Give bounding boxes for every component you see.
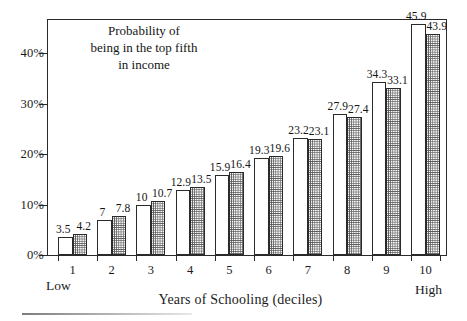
y-axis-tick-label: 20%	[20, 147, 44, 162]
bar-value-label-series-1: 23.2	[288, 124, 309, 136]
x-axis-tick	[254, 255, 255, 261]
bar-value-label-series-1: 19.3	[249, 144, 270, 156]
x-axis-title: Years of Schooling (deciles)	[0, 292, 467, 308]
bar-value-label-series-1: 27.9	[328, 100, 349, 112]
x-axis-tick-label: 2	[109, 263, 115, 278]
bar-series-1	[176, 190, 191, 255]
bar-series-2	[190, 187, 205, 255]
x-axis-tick-label: 1	[69, 263, 75, 278]
bar-value-label-series-1: 15.9	[210, 161, 231, 173]
bar-series-2	[229, 172, 244, 255]
bar-series-1	[411, 24, 426, 255]
bar-series-1	[136, 205, 151, 255]
bar-series-2	[308, 139, 323, 255]
x-axis-tick-label: 5	[226, 263, 232, 278]
bar-value-label-series-2: 7.8	[116, 202, 131, 214]
x-axis-tick-label: 3	[148, 263, 154, 278]
bar-value-label-series-2: 27.4	[348, 103, 369, 115]
x-axis-tick-label: 6	[265, 263, 271, 278]
bar-series-1	[372, 82, 387, 255]
bar-value-label-series-1: 7	[100, 206, 106, 218]
x-axis-tick	[440, 255, 441, 261]
footer-divider	[22, 313, 192, 315]
x-axis-tick	[333, 255, 334, 261]
bar-series-2	[386, 88, 401, 255]
annotation-line-3: in income	[54, 56, 234, 73]
x-axis-tick	[293, 255, 294, 261]
y-axis-tick-label: 0%	[27, 248, 44, 263]
bar-series-1	[254, 158, 269, 255]
bar-value-label-series-1: 3.5	[56, 223, 71, 235]
x-axis-tick-label: 9	[383, 263, 389, 278]
bar-series-1	[97, 220, 112, 255]
chart-annotation: Probability of being in the top fifth in…	[54, 22, 234, 73]
bar-series-2	[426, 34, 441, 255]
x-axis-tick	[58, 255, 59, 261]
x-axis-tick	[176, 255, 177, 261]
x-axis-tick-label: 7	[305, 263, 311, 278]
bar-series-1	[58, 237, 73, 255]
bar-series-2	[347, 117, 362, 255]
bar-value-label-series-2: 19.6	[270, 142, 291, 154]
bar-value-label-series-2: 33.1	[387, 74, 408, 86]
bar-series-1	[215, 175, 230, 255]
x-axis-title-text: Years of Schooling (deciles)	[159, 292, 323, 307]
x-axis-tick	[215, 255, 216, 261]
x-axis-tick-label: 10	[419, 263, 432, 278]
bar-value-label-series-2: 23.1	[309, 125, 330, 137]
bar-value-label-series-1: 12.9	[171, 176, 192, 188]
bar-value-label-series-1: 45.9	[406, 10, 427, 22]
bar-series-2	[269, 156, 284, 255]
x-axis-tick	[136, 255, 137, 261]
bar-series-1	[333, 114, 348, 255]
bar-value-label-series-1: 10	[136, 191, 148, 203]
bar-value-label-series-2: 16.4	[230, 158, 251, 170]
x-axis-tick	[411, 255, 412, 261]
figure: 0%10%20%30%40%3.54.2177.821010.7312.913.…	[0, 0, 467, 321]
bar-value-label-series-2: 13.5	[191, 173, 212, 185]
bar-series-1	[293, 138, 308, 255]
annotation-line-2: being in the top fifth	[54, 39, 234, 56]
x-axis-tick	[97, 255, 98, 261]
bar-value-label-series-2: 43.9	[426, 20, 447, 32]
x-axis-tick-label: 8	[344, 263, 350, 278]
bar-series-2	[112, 216, 127, 255]
annotation-line-1: Probability of	[54, 22, 234, 39]
bar-series-2	[151, 201, 166, 255]
y-axis-tick-label: 10%	[20, 197, 44, 212]
bar-value-label-series-2: 4.2	[76, 220, 91, 232]
bar-value-label-series-1: 34.3	[367, 68, 388, 80]
bar-series-2	[73, 234, 88, 255]
x-axis-tick	[372, 255, 373, 261]
x-axis-tick-label: 4	[187, 263, 193, 278]
bar-value-label-series-2: 10.7	[152, 187, 173, 199]
y-axis-tick-label: 40%	[20, 46, 44, 61]
y-axis-tick-label: 30%	[20, 96, 44, 111]
